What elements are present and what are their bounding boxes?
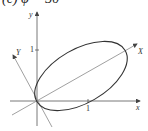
rotated-y-axis-label: Y <box>16 49 20 57</box>
plot-canvas <box>0 0 148 131</box>
y-axis-label: y <box>29 11 33 19</box>
rotated-y-axis <box>13 55 52 127</box>
rotated-x-axis-label: X <box>138 48 143 56</box>
rotated-ellipse-figure: (c) φ = 30° y 1 1 x X Y <box>0 0 148 131</box>
y-tick-label: 1 <box>30 46 34 54</box>
x-tick-label: 1 <box>86 105 90 113</box>
x-axis-label: x <box>136 104 140 112</box>
